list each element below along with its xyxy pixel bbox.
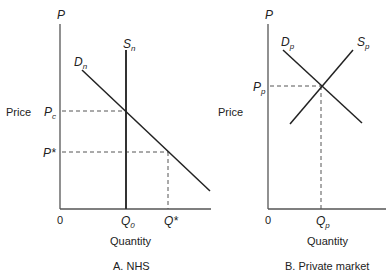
private-p-axis-label: P [265, 8, 273, 22]
panel-nhs: P Price Sn Dn Pc P* 0 Q0 Q* Quantity A. … [6, 8, 211, 272]
private-origin-label: 0 [265, 214, 271, 226]
nhs-p-axis-label: P [57, 8, 65, 22]
nhs-pc-label: Pc [44, 105, 56, 121]
private-price-title: Price [218, 106, 243, 118]
private-quantity-title: Quantity [307, 235, 348, 247]
nhs-pstar-label: P* [43, 146, 56, 160]
nhs-qstar-label: Q* [164, 214, 178, 228]
nhs-quantity-title: Quantity [110, 235, 151, 247]
nhs-q0-label: Q0 [121, 214, 135, 230]
private-pp-label: Pp [253, 80, 266, 96]
supply-demand-diagram: P Price Sn Dn Pc P* 0 Q0 Q* Quantity A. … [0, 0, 387, 275]
private-supply-curve [290, 50, 353, 124]
nhs-demand-label: Dn [74, 55, 88, 71]
nhs-origin-label: 0 [57, 214, 63, 226]
nhs-supply-label: Sn [123, 37, 136, 53]
private-supply-label: Sp [357, 35, 370, 51]
private-demand-label: Dp [281, 35, 295, 51]
nhs-caption: A. NHS [113, 260, 150, 272]
panel-private-market: P Price Dp Sp Pp 0 Qp Quantity B. Privat… [218, 8, 386, 272]
nhs-demand-curve [82, 70, 210, 191]
private-caption: B. Private market [285, 260, 369, 272]
private-qp-label: Qp [316, 214, 330, 230]
nhs-price-title: Price [6, 106, 31, 118]
